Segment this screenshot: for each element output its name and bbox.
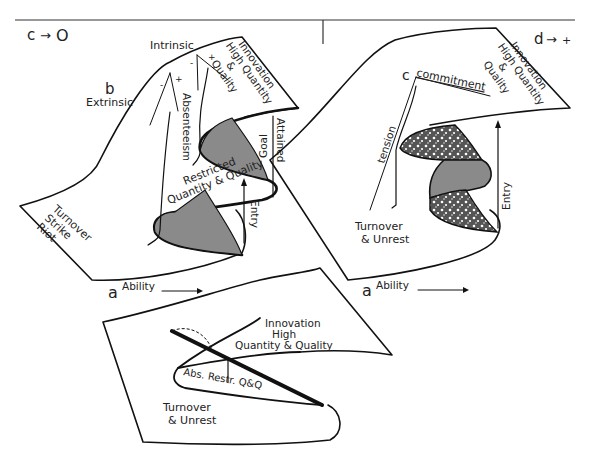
label-entry: Entry [249, 200, 261, 228]
label-innovation-b3: Quantity & Quality [235, 339, 333, 351]
point-a: a [108, 283, 118, 302]
panel-d: d → + c commitment Innovation High Quant… [270, 28, 571, 300]
mottled-upper [400, 125, 482, 161]
ability-arrowhead [197, 288, 203, 294]
label-innovation-group: Innovation High Quantity & Quality [206, 33, 285, 118]
label-entry-d: Entry [500, 182, 512, 210]
corner-arrow-d: → [546, 32, 557, 47]
label-tension: tension [374, 124, 397, 165]
label-turnover-b2: & Unrest [168, 414, 217, 427]
label-turnover-b1: Turnover [162, 401, 211, 414]
label-turnover-d2: & Unrest [361, 233, 410, 246]
cusp-catastrophe-diagram: c → O Intrinsic b Extrinsic - + - + Inno… [0, 0, 590, 456]
entry-arrowhead [241, 178, 247, 186]
corner-label-c: c [27, 26, 35, 44]
point-a-d: a [362, 281, 372, 300]
label-commitment: commitment [415, 66, 487, 93]
corner-label-d: d [534, 30, 544, 48]
mottled-lower [430, 190, 497, 232]
label-turnover-group: Turnover Strike Riot [33, 202, 94, 263]
label-turnover-d1: Turnover [354, 220, 403, 233]
corner-value-d: + [562, 34, 571, 47]
corner-value: O [56, 26, 69, 45]
label-ability: Ability [122, 280, 155, 292]
label-absenteeism: Absenteeism [181, 93, 193, 161]
sign-minus-1: - [160, 80, 163, 90]
entry-arrowhead-d [495, 120, 501, 128]
sign-minus-2: - [190, 58, 193, 68]
ability-arrowhead-d [463, 287, 469, 293]
panel-c0: c → O Intrinsic b Extrinsic - + - + Inno… [20, 26, 298, 302]
label-innovation-d-group: Innovation High Quantity & Quality [478, 34, 557, 119]
label-goal: Goal [257, 134, 269, 158]
point-c: c [402, 67, 410, 83]
sign-plus-1: + [175, 74, 183, 84]
corner-arrow: → [40, 28, 51, 43]
label-attained: Attained [275, 118, 287, 162]
label-ability-d: Ability [376, 279, 409, 291]
panel-bottom: Innovation High Quantity & Quality Abs. … [103, 268, 392, 444]
label-extrinsic: Extrinsic [86, 96, 133, 109]
label-intrinsic: Intrinsic [150, 39, 194, 52]
